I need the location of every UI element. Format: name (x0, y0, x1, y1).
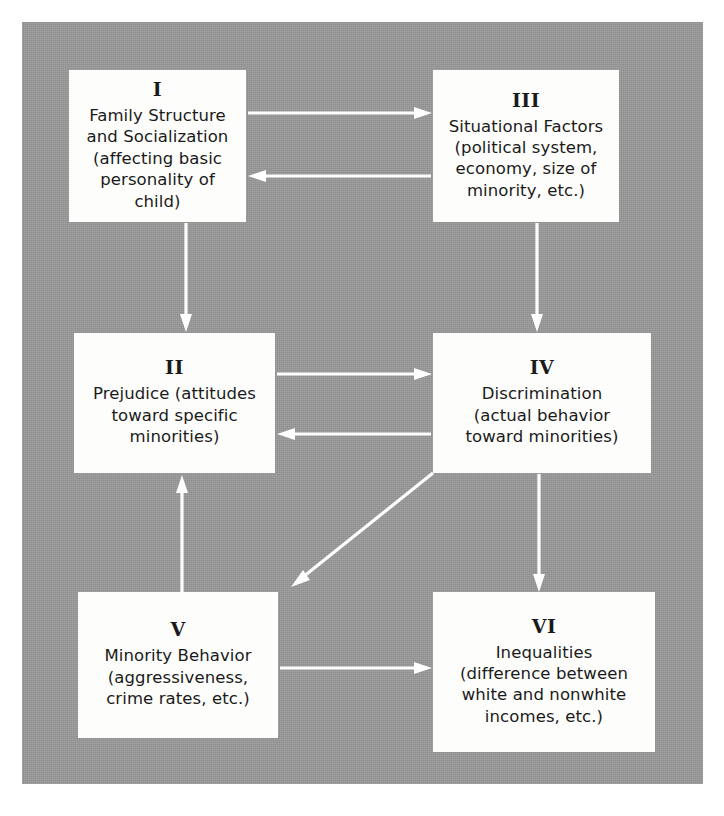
arrow-iii-to-iv (531, 223, 543, 332)
node-label: Minority Behavior (aggressiveness, crime… (104, 645, 251, 709)
node-discrimination[interactable]: IV Discrimination (actual behavior towar… (433, 333, 651, 473)
arrow-v-to-vi (280, 662, 432, 674)
node-numeral: I (153, 80, 162, 100)
node-inequalities[interactable]: VI Inequalities (difference between whit… (433, 592, 655, 752)
arrow-i-to-iii (248, 107, 432, 119)
arrow-iv-to-vi (533, 474, 545, 592)
node-minority-behavior[interactable]: V Minority Behavior (aggressiveness, cri… (78, 592, 278, 738)
node-numeral: V (170, 620, 185, 640)
node-label: Prejudice (attitudes toward specific min… (93, 383, 256, 447)
node-numeral: VI (532, 617, 557, 637)
node-numeral: II (165, 358, 184, 378)
figure-page: I Family Structure and Socialization (af… (0, 0, 724, 816)
node-label: Inequalities (difference between white a… (460, 642, 628, 728)
arrow-iii-to-i (248, 170, 431, 182)
node-situational-factors[interactable]: III Situational Factors (political syste… (433, 70, 619, 222)
node-prejudice[interactable]: II Prejudice (attitudes toward specific … (74, 333, 275, 473)
node-label: Discrimination (actual behavior toward m… (466, 383, 619, 447)
arrow-i-to-ii (180, 223, 192, 332)
node-label: Situational Factors (political system, e… (449, 116, 604, 202)
node-label: Family Structure and Socialization (affe… (77, 105, 238, 212)
arrow-iv-to-v (291, 473, 433, 587)
arrow-iv-to-ii (277, 428, 431, 440)
node-family-structure[interactable]: I Family Structure and Socialization (af… (69, 70, 246, 222)
arrow-v-to-ii (176, 475, 188, 592)
node-numeral: IV (530, 358, 555, 378)
arrow-ii-to-iv (277, 368, 432, 380)
node-numeral: III (512, 91, 540, 111)
